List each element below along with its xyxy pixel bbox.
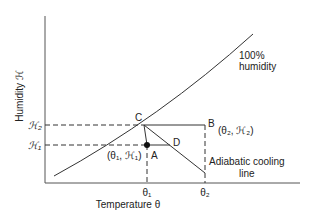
point-d-label: D	[173, 137, 180, 148]
y-axis-label: Humidity ℋ	[14, 70, 25, 122]
adiabatic-line	[144, 125, 205, 173]
adiabatic-label-line2: line	[239, 168, 255, 179]
x-tick-theta2: θ₂	[200, 187, 210, 198]
c-to-a-line	[144, 125, 147, 145]
x-tick-theta1: θ₁	[143, 187, 153, 198]
point-a-label: A	[151, 150, 158, 161]
point-a-coords: (θ₁, ℋ₁)	[107, 150, 142, 161]
psychrometric-diagram: Humidity ℋ Temperature θ 100% humidity ℋ…	[0, 0, 312, 217]
curve-label-line2: humidity	[239, 61, 276, 72]
adiabatic-label-line1: Adiabatic cooling	[209, 156, 285, 167]
y-tick-h1: ℋ₁	[28, 140, 41, 151]
point-b-coords: (θ₂, ℋ₂)	[218, 125, 254, 136]
point-b-label: B	[208, 118, 215, 129]
point-a-dot	[144, 142, 150, 148]
point-c-label: C	[135, 112, 142, 123]
x-axis-label: Temperature θ	[96, 199, 161, 210]
y-tick-h2: ℋ₂	[28, 120, 42, 131]
curve-label-line1: 100%	[239, 50, 265, 61]
